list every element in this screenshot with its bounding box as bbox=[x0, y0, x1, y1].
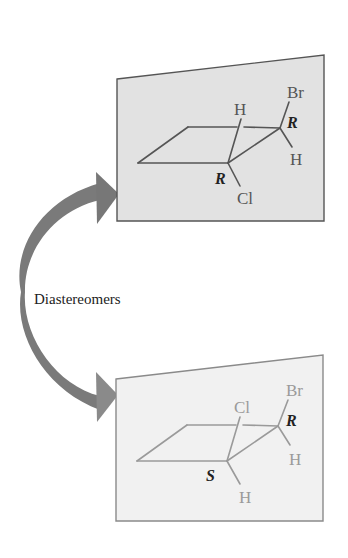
bottom-panel-background bbox=[116, 355, 323, 521]
bottom-molecule-panel: Cl H Br H S R bbox=[116, 355, 323, 521]
top-back-configuration: R bbox=[286, 114, 298, 131]
top-back-up-substituent: Br bbox=[287, 83, 304, 102]
diastereomers-label: Diastereomers bbox=[34, 291, 121, 308]
top-front-configuration: R bbox=[214, 170, 226, 187]
top-panel-background bbox=[117, 55, 324, 221]
bottom-back-configuration: R bbox=[285, 412, 297, 429]
bottom-back-down-substituent: H bbox=[289, 450, 301, 469]
bottom-front-down-substituent: H bbox=[239, 488, 251, 507]
arrow-head-bottom bbox=[96, 372, 118, 422]
bottom-front-up-substituent: Cl bbox=[234, 398, 250, 417]
top-front-down-substituent: Cl bbox=[237, 189, 253, 208]
top-front-up-substituent: H bbox=[234, 100, 246, 119]
diastereomer-diagram: H Cl Br H R R Cl H Br H bbox=[0, 0, 348, 558]
arrow-head-top bbox=[96, 172, 119, 224]
bottom-front-configuration: S bbox=[206, 467, 215, 484]
top-back-down-substituent: H bbox=[290, 150, 302, 169]
bottom-back-up-substituent: Br bbox=[286, 381, 303, 400]
top-molecule-panel: H Cl Br H R R bbox=[117, 55, 324, 221]
